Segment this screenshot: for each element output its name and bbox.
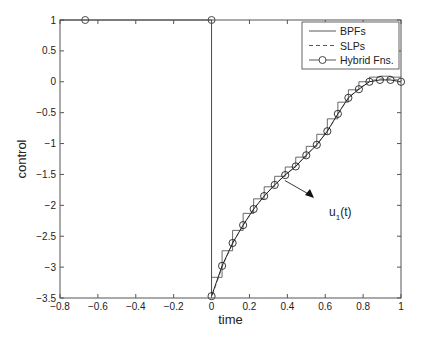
x-tick-label: 0 [209,301,215,312]
annotation-label: u1(t) [329,205,351,222]
x-tick-label: 1 [398,301,404,312]
y-tick-label: −3.5 [36,293,56,304]
arrow-head-icon [305,189,314,198]
chart-canvas: −0.8−0.6−0.4−0.200.20.40.60.8110.50−0.5−… [0,0,423,344]
series-hybrid-fns [212,80,401,296]
series-bpfs [212,76,401,277]
x-tick-label: 0.4 [280,301,294,312]
y-tick-label: −3 [45,262,57,273]
y-tick-label: −1 [45,138,57,149]
legend-circle-icon [319,57,326,64]
y-tick-label: −0.5 [36,107,56,118]
legend-label: Hybrid Fns. [340,54,394,66]
y-tick-label: −2 [45,200,57,211]
x-tick-label: 0.2 [242,301,256,312]
x-tick-label: 0.8 [356,301,370,312]
x-tick-label: −0.4 [126,301,146,312]
y-tick-label: 0.5 [42,45,56,56]
legend: BPFsSLPsHybrid Fns. [302,22,399,69]
annotation: u1(t) [285,181,352,222]
y-tick-label: −2.5 [36,231,56,242]
y-tick-label: 1 [50,15,56,26]
x-tick-label: −0.6 [88,301,108,312]
series-slps [213,79,402,295]
legend-label: SLPs [340,40,365,52]
y-tick-label: −1.5 [36,169,56,180]
y-axis-label: control [14,139,29,178]
x-tick-label: 0.6 [318,301,332,312]
y-tick-label: 0 [50,76,56,87]
x-tick-label: −0.2 [164,301,184,312]
legend-label: BPFs [340,25,366,37]
x-axis-label: time [218,312,243,327]
